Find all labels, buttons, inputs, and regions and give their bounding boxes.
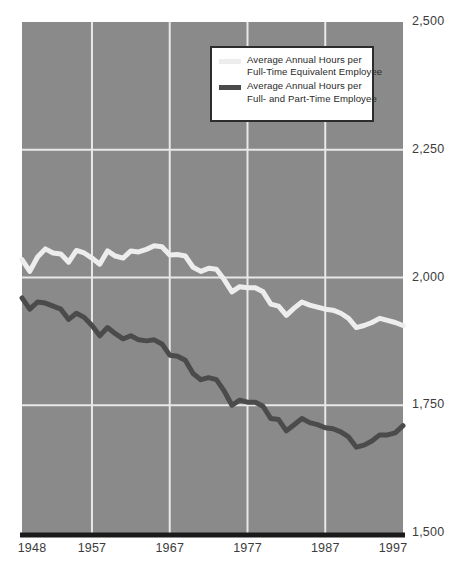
legend-label-all-employees: Average Annual Hours perFull- and Part-T… xyxy=(247,80,377,104)
legend-label-fte: Average Annual Hours perFull-Time Equiva… xyxy=(247,54,382,78)
x-tick-label: 1997 xyxy=(379,542,408,555)
x-tick-label: 1967 xyxy=(155,542,184,555)
x-tick-label: 1977 xyxy=(233,542,262,555)
chart-legend: Average Annual Hours perFull-Time Equiva… xyxy=(210,46,374,122)
legend-item-fte: Average Annual Hours perFull-Time Equiva… xyxy=(219,54,366,78)
legend-item-all-employees: Average Annual Hours perFull- and Part-T… xyxy=(219,80,366,104)
y-tick-label: 1,500 xyxy=(412,526,444,539)
x-tick-label: 1987 xyxy=(311,542,340,555)
y-tick-label: 2,000 xyxy=(412,271,444,284)
x-tick-label: 1957 xyxy=(78,542,107,555)
x-tick-label: 1948 xyxy=(18,542,47,555)
y-tick-label: 1,750 xyxy=(412,398,444,411)
y-tick-label: 2,250 xyxy=(412,143,444,156)
chart-container: 2,5002,2502,0001,7501,500 19481957196719… xyxy=(0,0,462,577)
y-tick-label: 2,500 xyxy=(412,15,444,28)
legend-swatch-light-icon xyxy=(219,59,241,64)
legend-swatch-dark-icon xyxy=(219,85,241,90)
